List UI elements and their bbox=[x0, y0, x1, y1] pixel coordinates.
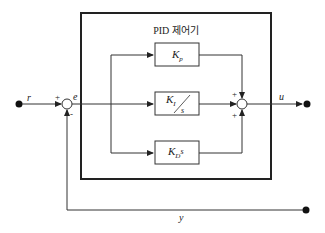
controller-title: PID 제어기 bbox=[153, 25, 199, 36]
control-signal-label: u bbox=[279, 91, 284, 102]
top-plus-sign-label: + bbox=[232, 89, 237, 99]
error-summing-junction: + - bbox=[55, 92, 73, 119]
kp-subscript: p bbox=[178, 55, 183, 63]
minus-sign-label: - bbox=[70, 109, 73, 119]
kd-suffix: s bbox=[180, 147, 183, 156]
plus-sign-label: + bbox=[55, 92, 60, 102]
integral-block: KI s bbox=[155, 92, 199, 115]
ki-denominator: s bbox=[181, 106, 184, 115]
bottom-plus-sign-label: + bbox=[232, 110, 237, 120]
input-terminal-dot bbox=[16, 101, 23, 108]
proportional-block: Kp bbox=[155, 43, 199, 66]
derivative-block: KDs bbox=[155, 141, 199, 164]
error-signal-label: e bbox=[73, 91, 78, 102]
output-terminal-dot bbox=[304, 101, 311, 108]
pid-block-diagram: PID 제어기 r + - e Kp KI bbox=[0, 0, 325, 233]
output-signal-label: y bbox=[178, 212, 184, 223]
reference-signal-label: r bbox=[27, 92, 31, 103]
feedback-terminal-dot bbox=[303, 207, 310, 214]
